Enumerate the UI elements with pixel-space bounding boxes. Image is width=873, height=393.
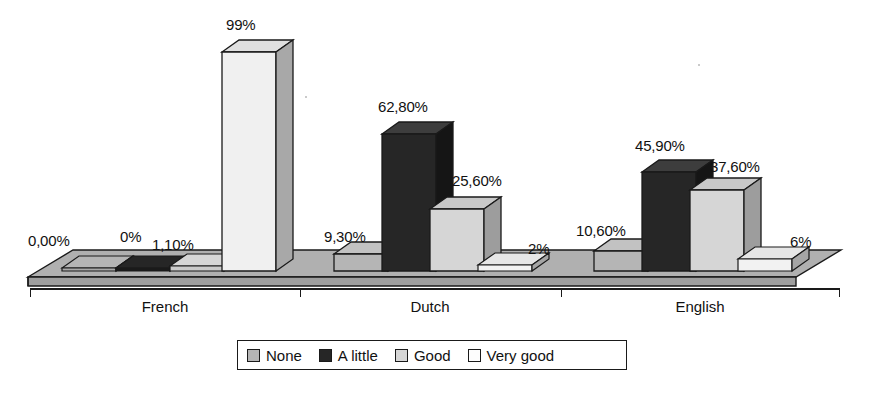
axis-tick-1 bbox=[300, 288, 301, 297]
bar-chart-3d: 0,00% 0% 1,10% 99% 9,30% 62,80% 25,60% 2… bbox=[0, 0, 873, 393]
legend-label-good: Good bbox=[414, 347, 451, 364]
data-label-french-very-good: 99% bbox=[226, 16, 255, 33]
legend-label-a-little: A little bbox=[338, 347, 378, 364]
data-label-english-very-good: 6% bbox=[790, 233, 811, 250]
legend: None A little Good Very good bbox=[237, 340, 627, 370]
legend-item-good[interactable]: Good bbox=[395, 347, 451, 364]
data-label-english-none: 10,60% bbox=[576, 222, 626, 239]
data-label-english-good: 37,60% bbox=[710, 158, 760, 175]
data-label-english-a-little: 45,90% bbox=[635, 137, 685, 154]
legend-swatch-very-good-icon bbox=[468, 349, 481, 362]
data-label-dutch-good: 25,60% bbox=[452, 172, 502, 189]
data-label-french-none: 0,00% bbox=[28, 232, 70, 249]
data-label-french-a-little: 0% bbox=[120, 228, 141, 245]
legend-swatch-a-little-icon bbox=[319, 349, 332, 362]
legend-swatch-none-icon bbox=[247, 349, 260, 362]
category-label-dutch: Dutch bbox=[355, 298, 505, 315]
legend-swatch-good-icon bbox=[395, 349, 408, 362]
axis-tick-2 bbox=[561, 288, 562, 297]
legend-item-a-little[interactable]: A little bbox=[319, 347, 378, 364]
category-axis-line bbox=[30, 288, 840, 290]
axis-tick-end bbox=[839, 288, 840, 297]
legend-label-none: None bbox=[266, 347, 302, 364]
category-label-french: French bbox=[90, 298, 240, 315]
data-label-dutch-very-good: 2% bbox=[528, 240, 549, 257]
category-label-english: English bbox=[625, 298, 775, 315]
axis-tick-start bbox=[30, 288, 31, 297]
data-label-dutch-a-little: 62,80% bbox=[378, 98, 428, 115]
legend-label-very-good: Very good bbox=[487, 347, 555, 364]
data-label-french-good: 1,10% bbox=[152, 236, 194, 253]
legend-item-none[interactable]: None bbox=[247, 347, 302, 364]
legend-item-very-good[interactable]: Very good bbox=[468, 347, 555, 364]
data-label-dutch-none: 9,30% bbox=[324, 228, 366, 245]
